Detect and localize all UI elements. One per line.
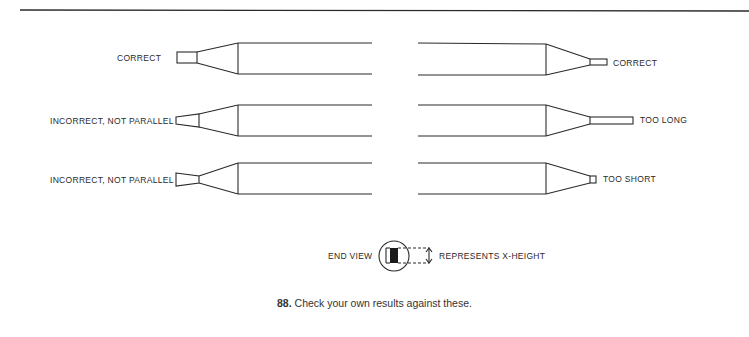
label-left-incorrect-2: INCORRECT, NOT PARALLEL (50, 175, 174, 185)
left-nib-correct (177, 43, 372, 74)
label-end-view: END VIEW (328, 251, 372, 261)
label-left-incorrect-1: INCORRECT, NOT PARALLEL (50, 116, 174, 126)
diagram-drawing (0, 0, 749, 337)
left-nib-incorrect-2 (176, 163, 372, 194)
label-left-correct: CORRECT (117, 53, 161, 63)
figure-caption: 88. Check your own results against these… (0, 297, 749, 309)
end-view-diagram (379, 241, 432, 271)
figure-number: 88. (277, 297, 292, 309)
right-nib-correct (418, 43, 607, 75)
caption-text: Check your own results against these. (295, 297, 472, 309)
pen-nib-diagram: CORRECT INCORRECT, NOT PARALLEL INCORREC… (0, 0, 749, 337)
right-nib-too-short (418, 163, 596, 194)
label-right-too-long: TOO LONG (640, 115, 687, 125)
left-nib-incorrect-1 (176, 105, 372, 136)
label-x-height: REPRESENTS X-HEIGHT (439, 251, 545, 261)
top-rule (20, 10, 749, 11)
label-right-too-short: TOO SHORT (603, 174, 656, 184)
right-nib-too-long (418, 105, 633, 136)
label-right-correct: CORRECT (613, 58, 657, 68)
